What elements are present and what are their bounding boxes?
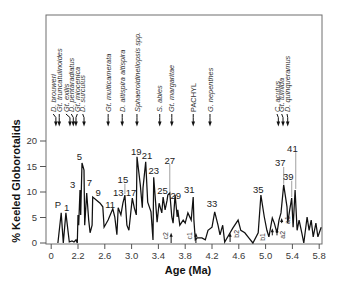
arrow-down-icon: [57, 122, 61, 127]
sample-label: 39: [283, 171, 294, 182]
sample-label: 41: [287, 143, 298, 154]
sample-label: 25: [157, 185, 168, 196]
biostratigraphic-events: D. brouweriGt. truncatulinoidesGt. exili…: [49, 32, 292, 127]
sample-label: 3: [70, 179, 75, 190]
sample-label: 27: [165, 155, 176, 166]
sample-label: 37: [275, 157, 286, 168]
sample-label: 23: [148, 165, 159, 176]
event-leader-line: [287, 114, 288, 122]
sample-label: 15: [118, 174, 129, 185]
x-axis-title: Age (Ma): [165, 264, 212, 276]
x-tick-label: 4.2: [205, 250, 218, 261]
y-tick-label: 10: [26, 186, 37, 197]
arrow-down-icon: [208, 122, 212, 127]
sample-label: 19: [131, 146, 142, 157]
x-tick-label: 5.4: [286, 250, 299, 261]
y-tick-label: 15: [26, 161, 37, 172]
event-label: G. nepenthes: [206, 67, 215, 112]
series-layer: [58, 157, 321, 243]
x-axis: 02.22.63.03.43.84.24.65.05.45.8: [49, 244, 326, 261]
sample-label: 35: [253, 184, 264, 195]
sample-label: 33: [207, 198, 218, 209]
interval-marker-label: c2: [162, 232, 169, 240]
arrow-down-icon: [191, 122, 195, 127]
x-tick-label: 2.6: [98, 250, 111, 261]
sample-label: P: [55, 199, 61, 210]
arrow-down-icon: [54, 122, 58, 127]
interval-marker-label: a2: [279, 231, 286, 239]
event-label: S. abies: [155, 85, 164, 112]
sample-label: 21: [142, 150, 153, 161]
event-label: Sphaeroidinellopsis spp.: [133, 32, 142, 112]
event-leader-line: [66, 114, 70, 122]
event-label: Gt. multicamerata: [104, 54, 113, 112]
x-tick-label: 3.8: [179, 250, 192, 261]
arrow-down-icon: [68, 122, 72, 127]
event-label: D. surculus: [78, 75, 87, 112]
keeled-globorotalids-chart: 05101520 02.22.63.03.43.84.24.65.05.45.8…: [0, 0, 337, 284]
event-leader-line: [71, 114, 73, 122]
arrow-down-icon: [170, 122, 174, 127]
sample-label: 13: [113, 187, 124, 198]
x-tick-label: 3.4: [152, 250, 165, 261]
sample-label: 11: [105, 199, 115, 210]
y-axis-title: % Keeled Globorotalids: [10, 119, 22, 242]
x-tick-label: 2.2: [71, 250, 84, 261]
event-leader-line: [83, 114, 84, 122]
y-tick-label: 0: [32, 237, 37, 248]
sample-label: 17: [126, 187, 137, 198]
y-axis: 05101520: [26, 135, 46, 248]
arrow-down-icon: [106, 122, 110, 127]
sample-label: 29: [171, 190, 182, 201]
arrow-down-icon: [135, 122, 139, 127]
sample-label: 7: [87, 177, 92, 188]
arrow-up-icon: [170, 233, 173, 237]
event-leader-line: [76, 114, 77, 122]
keeled-globorotalids-line: [58, 157, 321, 243]
event-label: D. altispira altispira: [118, 50, 127, 112]
arrow-up-icon: [271, 228, 274, 232]
x-tick-label: 3.0: [125, 250, 138, 261]
x-tick-label: 4.6: [232, 250, 245, 261]
y-tick-label: 5: [32, 212, 37, 223]
x-tick-label: 0: [49, 250, 54, 261]
interval-marker-label: a1: [284, 216, 291, 224]
event-leader-line: [282, 114, 283, 122]
sample-label: 1: [64, 202, 69, 213]
arrow-up-icon: [280, 218, 283, 222]
arrow-down-icon: [82, 122, 86, 127]
interval-marker-label: b1: [259, 233, 266, 241]
y-tick-label: 20: [26, 135, 37, 146]
arrow-down-icon: [158, 122, 162, 127]
x-tick-label: 5.0: [259, 250, 272, 261]
arrow-down-icon: [281, 122, 285, 127]
arrow-down-icon: [286, 122, 290, 127]
event-label: D. quinqueramus: [283, 55, 292, 112]
sample-label: 5: [77, 151, 82, 162]
arrow-down-icon: [74, 122, 78, 127]
event-leader-line: [277, 114, 278, 122]
interval-marker-label: b2: [233, 230, 240, 238]
event-label: Gt. margaritae: [167, 65, 176, 112]
event-leader-line: [53, 114, 56, 122]
sample-label: 31: [184, 184, 195, 195]
arrow-down-icon: [277, 122, 281, 127]
x-tick-label: 5.8: [313, 250, 326, 261]
sample-label: 9: [95, 187, 100, 198]
arrow-down-icon: [120, 122, 124, 127]
event-label: PACHYL: [189, 83, 198, 112]
interval-marker-label: c1: [186, 232, 193, 240]
